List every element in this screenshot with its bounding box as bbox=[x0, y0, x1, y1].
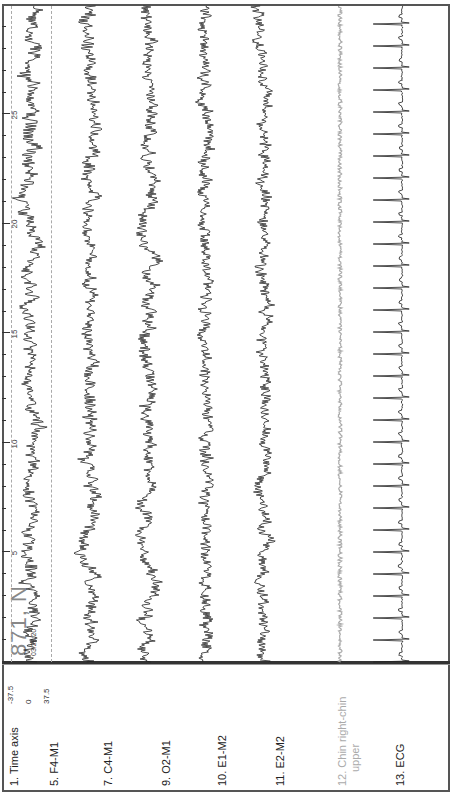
time-tick-mark bbox=[2, 573, 6, 574]
channel-label-c4-m1[interactable]: 7. C4-M1 bbox=[102, 741, 114, 786]
time-tick-mark bbox=[2, 508, 6, 509]
time-tick-mark bbox=[2, 26, 6, 27]
time-tick-mark bbox=[2, 179, 6, 180]
channel-label-chin-line1[interactable]: 12. Chin right-chin bbox=[336, 697, 348, 786]
time-tick-mark bbox=[2, 289, 6, 290]
scale-top: -37.5 bbox=[6, 686, 15, 704]
time-tick-mark bbox=[2, 464, 6, 465]
scale-mid: 0 bbox=[24, 700, 33, 704]
time-tick-mark bbox=[2, 442, 10, 443]
time-tick-mark bbox=[2, 114, 10, 115]
time-tick-mark bbox=[2, 157, 6, 158]
time-tick-mark bbox=[2, 135, 6, 136]
channel-label-o2-m1[interactable]: 9. O2-M1 bbox=[160, 740, 172, 786]
signal-trace-13 bbox=[362, 6, 442, 662]
time-tick-mark bbox=[2, 267, 6, 268]
time-tick-mark bbox=[2, 639, 6, 640]
channel-label-ecg[interactable]: 13. ECG bbox=[394, 744, 406, 786]
channel-label-chin-line2: upper bbox=[349, 744, 361, 772]
time-tick-mark bbox=[2, 530, 6, 531]
channel-label-column: 1. Time axis -37.5 0 37.5 5. F4-M1 7. C4… bbox=[2, 664, 450, 792]
time-tick-mark bbox=[2, 354, 6, 355]
time-tick-mark bbox=[2, 223, 10, 224]
psg-epoch-display: 1. Time axis -37.5 0 37.5 5. F4-M1 7. C4… bbox=[0, 0, 456, 794]
signal-trace-11 bbox=[224, 6, 304, 662]
time-tick-mark bbox=[2, 420, 6, 421]
time-tick-mark bbox=[2, 70, 6, 71]
time-tick-mark bbox=[2, 398, 6, 399]
time-tick-mark bbox=[2, 333, 10, 334]
time-tick-mark bbox=[2, 617, 6, 618]
scale-bottom: 37.5 bbox=[42, 688, 51, 704]
time-tick-mark bbox=[2, 376, 6, 377]
time-tick-mark bbox=[2, 311, 6, 312]
time-tick-mark bbox=[2, 48, 6, 49]
channel-label-e1-m2[interactable]: 10. E1-M2 bbox=[216, 735, 228, 786]
time-tick-mark bbox=[2, 245, 6, 246]
time-tick-mark bbox=[2, 552, 10, 553]
channel-label-e2-m2[interactable]: 11. E2-M2 bbox=[274, 736, 286, 786]
time-tick-mark bbox=[2, 201, 6, 202]
time-tick-mark bbox=[2, 92, 6, 93]
time-axis-label: 1. Time axis bbox=[8, 727, 20, 786]
time-tick-mark bbox=[2, 595, 6, 596]
channel-label-f4-m1[interactable]: 5. F4-M1 bbox=[48, 742, 60, 786]
time-tick-mark bbox=[2, 486, 6, 487]
